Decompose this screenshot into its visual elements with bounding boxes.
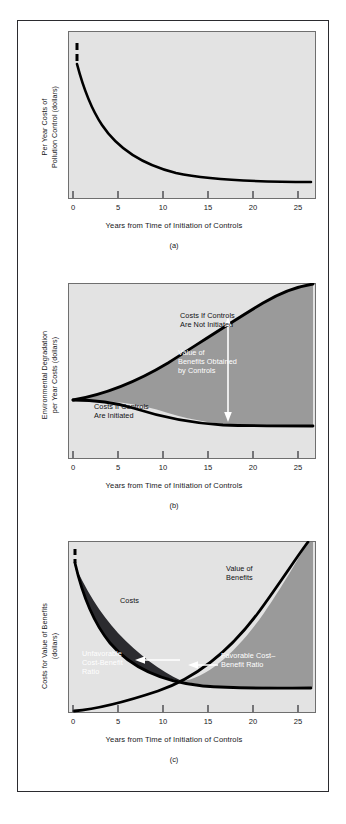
chart-panel-a: Per Year Costs of Pollution Control (dol…: [18, 25, 330, 277]
panel-b-x-tick-labels: 0 5 10 15 20 25: [68, 463, 316, 475]
panel-a-x-tick-labels: 0 5 10 15 20 25: [68, 203, 316, 215]
panel-c-plot-area: Costs Value of Benefits Unfavorable Cost…: [68, 541, 316, 713]
panel-c-label-unfavorable-ratio-line-3: Ratio: [82, 667, 123, 676]
panel-c-label-unfavorable-ratio: Unfavorable Cost-Benefit Ratio: [82, 649, 123, 677]
panel-c-label-costs: Costs: [120, 596, 139, 605]
panel-b-xtick-0: 0: [71, 463, 75, 472]
panel-b-label-value-of-benefits-line-1: Value of: [178, 348, 237, 357]
panel-c-xtick-20: 20: [249, 717, 257, 726]
panel-c-label-unfavorable-ratio-line-2: Cost-Benefit: [82, 658, 123, 667]
chart-panel-c: Costs for Value of Benefits (dollars): [18, 535, 330, 789]
panel-b-y-axis-label-line-2: per Year Costs (dollars): [50, 337, 60, 413]
panel-c-label-favorable-ratio-line-1: Favorable Cost–: [221, 651, 275, 660]
panel-c-label-value-of-benefits: Value of Benefits: [226, 564, 253, 582]
panel-c-y-axis-label-line-1: Costs for Value of Benefits: [40, 603, 50, 689]
panel-c-xtick-0: 0: [71, 717, 75, 726]
panel-a-plot-area: [68, 31, 316, 199]
panel-b-label-costs-initiated: Costs If Controls Are Initiated: [94, 402, 149, 420]
panel-a-xtick-20: 20: [249, 203, 257, 212]
panel-b-x-axis-title: Years from Time of Initiation of Control…: [18, 481, 330, 490]
panel-a-x-axis-title: Years from Time of Initiation of Control…: [18, 221, 330, 230]
panel-a-y-axis-label-line-2: Pollution Control (dollars): [50, 86, 60, 168]
panel-b-xtick-15: 15: [204, 463, 212, 472]
figure-frame: Per Year Costs of Pollution Control (dol…: [17, 20, 329, 792]
panel-b-label-costs-initiated-line-1: Costs If Controls: [94, 402, 149, 411]
panel-b-xtick-5: 5: [116, 463, 120, 472]
panel-b-label-costs-initiated-line-2: Are Initiated: [94, 411, 149, 420]
panel-c-label-value-of-benefits-line-1: Value of: [226, 564, 253, 573]
panel-c-xtick-15: 15: [204, 717, 212, 726]
panel-c-y-axis-label-line-2: (dollars): [50, 633, 60, 659]
panel-c-svg: [68, 541, 316, 713]
panel-a-xtick-15: 15: [204, 203, 212, 212]
panel-a-xtick-5: 5: [116, 203, 120, 212]
panel-a-plot-background: [69, 32, 316, 199]
panel-a-svg: [68, 31, 316, 199]
panel-c-label-favorable-ratio-line-2: Benefit Ratio: [221, 660, 275, 669]
panel-b-xtick-20: 20: [249, 463, 257, 472]
panel-c-label-unfavorable-ratio-line-1: Unfavorable: [82, 649, 123, 658]
panel-c-xtick-10: 10: [159, 717, 167, 726]
panel-a-y-axis-label-line-1: Per Year Costs of: [40, 99, 50, 156]
panel-b-xtick-25: 25: [294, 463, 302, 472]
panel-a-caption: (a): [18, 241, 330, 250]
panel-b-caption: (b): [18, 501, 330, 510]
panel-c-xtick-25: 25: [294, 717, 302, 726]
panel-c-x-axis-title: Years from Time of Initiation of Control…: [18, 735, 330, 744]
panel-b-label-value-of-benefits: Value of Benefits Obtained by Controls: [178, 348, 237, 376]
panel-c-label-value-of-benefits-line-2: Benefits: [226, 573, 253, 582]
panel-a-xtick-0: 0: [71, 203, 75, 212]
panel-c-xtick-5: 5: [116, 717, 120, 726]
panel-b-xtick-10: 10: [159, 463, 167, 472]
panel-b-label-costs-not-initiated-line-1: Costs If Controls: [180, 311, 235, 320]
panel-c-x-tick-labels: 0 5 10 15 20 25: [68, 717, 316, 729]
panel-b-label-costs-not-initiated: Costs If Controls Are Not Initiated: [180, 311, 235, 329]
panel-b-label-value-of-benefits-line-2: Benefits Obtained: [178, 357, 237, 366]
panel-a-xtick-25: 25: [294, 203, 302, 212]
chart-panel-b: Environmental Degradation per Year Costs…: [18, 277, 330, 535]
panel-c-caption: (c): [18, 755, 330, 764]
panel-c-label-favorable-ratio: Favorable Cost– Benefit Ratio: [221, 651, 275, 669]
panel-b-y-axis-label-line-1: Environmental Degradation: [40, 331, 50, 419]
panel-b-plot-area: Costs If Controls Are Not Initiated Valu…: [68, 283, 316, 459]
panel-a-xtick-10: 10: [159, 203, 167, 212]
panel-b-label-costs-not-initiated-line-2: Are Not Initiated: [180, 320, 235, 329]
panel-b-label-value-of-benefits-line-3: by Controls: [178, 366, 237, 375]
